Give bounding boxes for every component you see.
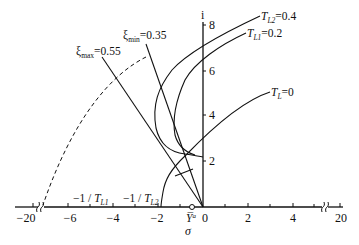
x-tick-label: 20 bbox=[335, 211, 347, 225]
dashed-arc bbox=[43, 57, 146, 205]
zero-marker bbox=[190, 205, 195, 210]
tl1-label: TL1=0.2 bbox=[247, 27, 282, 42]
locus-tl0 bbox=[161, 92, 270, 207]
zero-label: Y̅a bbox=[186, 212, 196, 224]
x-tick-label: −2 bbox=[151, 211, 164, 225]
inv-tl2-label: −1 / TL2 bbox=[123, 192, 159, 207]
xi-max-line bbox=[102, 57, 203, 207]
tl0-label: TL=0 bbox=[271, 86, 294, 101]
xi-min-label: ξmin=0.35 bbox=[123, 29, 167, 44]
x-tick-label: −4 bbox=[107, 211, 120, 225]
y-tick-label: 6 bbox=[209, 64, 215, 78]
x-tick-label: 0 bbox=[202, 211, 208, 225]
y-tick-label: 4 bbox=[209, 108, 215, 122]
x-tick-label: 4 bbox=[290, 211, 296, 225]
x-tick-label: −20 bbox=[17, 211, 36, 225]
y-tick-label: 8 bbox=[209, 18, 215, 32]
locus-tl1 bbox=[174, 33, 246, 155]
inv-tl1-label: −1 / TL1 bbox=[73, 192, 109, 207]
locus-tl2 bbox=[155, 16, 260, 157]
x-tick-label: 2 bbox=[245, 211, 251, 225]
x-tick-label: −6 bbox=[64, 211, 77, 225]
axis-break-left-icon bbox=[37, 202, 44, 212]
root-locus-diagram: −20 −6 −4 −2 0 2 4 20 2 4 6 8 i σ Y̅a TL… bbox=[0, 0, 359, 245]
sigma-axis-label: σ bbox=[185, 224, 192, 238]
imag-axis-label: i bbox=[201, 8, 205, 22]
axis-break-right-icon bbox=[322, 202, 329, 212]
imaginary-axis bbox=[203, 22, 206, 207]
damping-lines bbox=[102, 44, 203, 207]
tl2-label: TL2=0.4 bbox=[261, 10, 296, 25]
xi-max-label: ξmax=0.55 bbox=[76, 45, 121, 60]
y-tick-label: 2 bbox=[209, 154, 215, 168]
